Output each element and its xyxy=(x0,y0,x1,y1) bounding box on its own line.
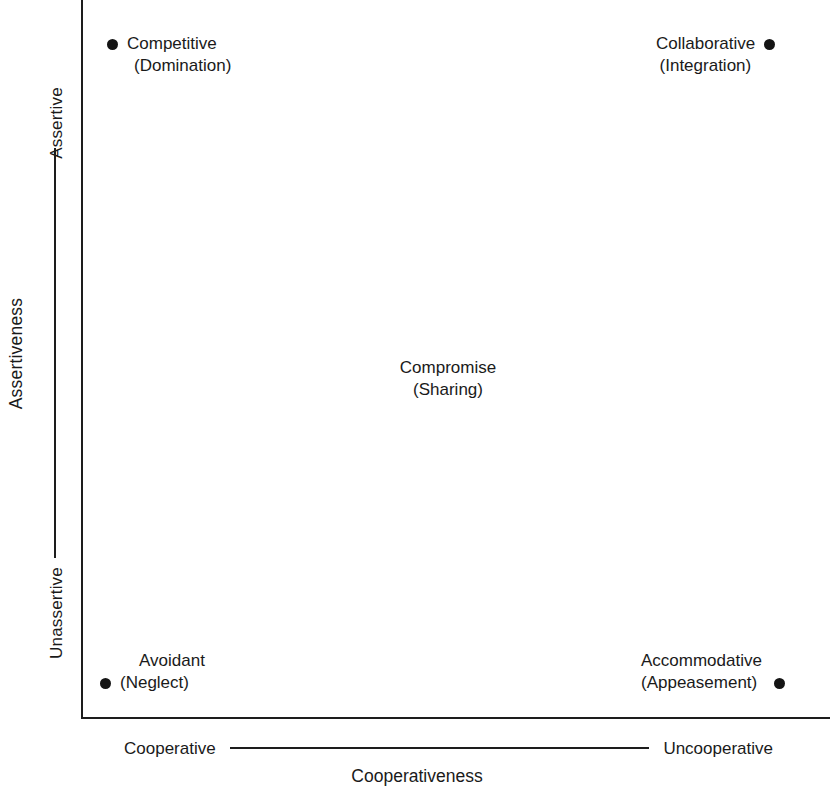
data-point-avoidant: Avoidant (Neglect) xyxy=(100,650,205,695)
data-point-label-line1: Competitive xyxy=(127,33,231,55)
y-axis-spine xyxy=(81,0,83,719)
y-axis-connector-line xyxy=(54,148,56,558)
conflict-styles-figure: Assertiveness Assertive Unassertive Coop… xyxy=(0,0,834,806)
data-point-compromise: Compromise (Sharing) xyxy=(382,357,514,402)
x-axis-title: Cooperativeness xyxy=(0,766,834,787)
y-axis-low-label: Unassertive xyxy=(47,553,67,673)
data-point-competitive: Competitive (Domination) xyxy=(107,33,231,78)
data-point-label-line2: (Sharing) xyxy=(382,379,514,401)
point-marker-icon xyxy=(100,678,111,689)
data-point-label-line2: (Domination) xyxy=(127,55,231,77)
data-point-label-line1: Collaborative xyxy=(656,33,755,55)
point-marker-icon xyxy=(107,39,118,50)
y-axis-title: Assertiveness xyxy=(6,294,27,414)
data-point-label: Accommodative (Appeasement) xyxy=(641,650,762,695)
data-point-label-line2: (Integration) xyxy=(656,55,755,77)
data-point-label: Compromise (Sharing) xyxy=(382,357,514,402)
data-point-label: Avoidant (Neglect) xyxy=(120,650,205,695)
data-point-accommodative: Accommodative (Appeasement) xyxy=(641,650,785,695)
point-marker-icon xyxy=(764,39,775,50)
data-point-label: Competitive (Domination) xyxy=(127,33,231,78)
data-point-label-line1: Compromise xyxy=(382,357,514,379)
x-axis-right-label: Uncooperative xyxy=(663,740,773,757)
data-point-label: Collaborative (Integration) xyxy=(656,33,755,78)
x-axis-scale-row: Cooperative Uncooperative xyxy=(81,736,830,760)
data-point-label-line1: Accommodative xyxy=(641,650,762,672)
x-axis-spine xyxy=(81,717,830,719)
data-point-collaborative: Collaborative (Integration) xyxy=(656,33,775,78)
point-marker-icon xyxy=(774,678,785,689)
data-point-label-line1: Avoidant xyxy=(120,650,205,672)
x-axis-connector-line xyxy=(230,747,650,749)
data-point-label-line2: (Appeasement) xyxy=(641,672,762,694)
y-axis-high-label: Assertive xyxy=(47,73,67,173)
x-axis-left-label: Cooperative xyxy=(124,740,216,757)
data-point-label-line2: (Neglect) xyxy=(120,672,205,694)
